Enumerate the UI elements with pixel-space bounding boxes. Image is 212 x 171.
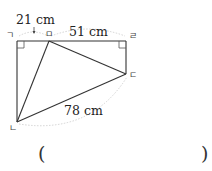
vertex-label-right: ㄷ (129, 70, 137, 80)
fold-line-mid-to-right (49, 41, 126, 74)
right-angle-marker-top-right (119, 41, 126, 48)
pointer-arrowhead (33, 31, 36, 34)
vertex-label-top-left: ㄱ (6, 30, 14, 40)
vertex-label-top-mid: ㅁ (45, 29, 53, 39)
measurement-51cm: 51 cm (69, 24, 108, 39)
measurement-78cm: 78 cm (64, 103, 103, 118)
answer-close-paren: ) (201, 142, 208, 164)
measurement-21cm: 21 cm (16, 12, 55, 27)
measure-arc-78 (19, 77, 127, 126)
right-angle-marker-top-left (17, 41, 24, 48)
answer-open-paren: ( (38, 142, 45, 164)
geometry-diagram: ㄱ ㅁ ㄹ ㄷ ㄴ 21 cm 51 cm 78 cm (0, 0, 212, 171)
vertex-label-top-right: ㄹ (129, 31, 137, 41)
vertex-label-bottom-left: ㄴ (9, 123, 17, 133)
